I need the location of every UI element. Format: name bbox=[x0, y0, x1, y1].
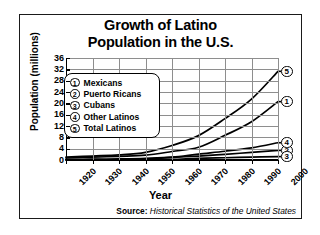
y-tick-label: 4 bbox=[44, 144, 64, 153]
legend-item-5: 5Total Latinos bbox=[70, 123, 154, 134]
y-tick-label: 20 bbox=[44, 99, 64, 108]
chart-title-line-1: Growth of Latino bbox=[24, 17, 297, 34]
chart-title-line-2: Population in the U.S. bbox=[24, 34, 297, 51]
y-tick-mark bbox=[66, 92, 70, 93]
series-end-marker-4: 4 bbox=[281, 137, 293, 149]
y-tick-mark bbox=[66, 69, 70, 70]
series-end-marker-5: 5 bbox=[281, 66, 293, 78]
legend-item-label: Cubans bbox=[84, 100, 116, 110]
legend-item-label: Total Latinos bbox=[84, 123, 137, 133]
x-tick-mark bbox=[146, 160, 147, 164]
chart-title: Growth of Latino Population in the U.S. bbox=[24, 17, 297, 50]
chart-legend: 1Mexicans2Puerto Ricans3Cubans4Other Lat… bbox=[64, 73, 160, 138]
y-tick-mark bbox=[66, 81, 70, 82]
y-tick-mark bbox=[66, 137, 70, 138]
series-end-marker-1: 1 bbox=[281, 96, 293, 108]
source-lead: Source: bbox=[116, 206, 147, 216]
gridline-vertical bbox=[199, 58, 200, 160]
y-tick-label: 16 bbox=[44, 110, 64, 119]
x-tick-mark bbox=[199, 160, 200, 164]
legend-number-badge: 5 bbox=[70, 124, 80, 134]
y-tick-label: 36 bbox=[44, 54, 64, 63]
x-tick-mark bbox=[172, 160, 173, 164]
x-tick-mark bbox=[278, 160, 279, 164]
y-tick-label: 0 bbox=[44, 156, 64, 165]
legend-item-label: Mexicans bbox=[84, 78, 123, 88]
source-text: Historical Statistics of the United Stat… bbox=[150, 206, 296, 216]
y-axis-label: Population (millions) bbox=[29, 27, 40, 137]
y-tick-label: 12 bbox=[44, 122, 64, 131]
series-end-marker-3: 3 bbox=[281, 151, 293, 163]
x-tick-mark bbox=[252, 160, 253, 164]
legend-item-3: 3Cubans bbox=[70, 100, 154, 111]
gridline-vertical bbox=[252, 58, 253, 160]
y-tick-mark bbox=[66, 115, 70, 116]
legend-item-2: 2Puerto Ricans bbox=[70, 88, 154, 99]
chart-figure: Growth of Latino Population in the U.S. … bbox=[0, 0, 320, 235]
y-tick-mark bbox=[66, 149, 70, 150]
x-tick-mark bbox=[119, 160, 120, 164]
legend-number-badge: 3 bbox=[70, 101, 80, 111]
y-tick-label-group: 04812162024283236 bbox=[42, 58, 64, 160]
gridline-vertical bbox=[278, 58, 279, 160]
y-tick-mark bbox=[66, 58, 70, 59]
y-tick-mark bbox=[66, 126, 70, 127]
y-tick-label: 28 bbox=[44, 76, 64, 85]
legend-item-4: 4Other Latinos bbox=[70, 111, 154, 122]
gridline-vertical bbox=[225, 58, 226, 160]
legend-number-badge: 2 bbox=[70, 89, 80, 99]
x-tick-mark bbox=[225, 160, 226, 164]
legend-item-1: 1Mexicans bbox=[70, 77, 154, 88]
x-axis-label: Year bbox=[19, 189, 302, 201]
y-tick-label: 24 bbox=[44, 88, 64, 97]
source-note: Source: Historical Statistics of the Uni… bbox=[19, 206, 296, 216]
gridline-vertical bbox=[172, 58, 173, 160]
x-tick-mark bbox=[93, 160, 94, 164]
y-tick-mark bbox=[66, 103, 70, 104]
legend-item-label: Other Latinos bbox=[84, 112, 140, 122]
y-tick-label: 32 bbox=[44, 65, 64, 74]
legend-item-label: Puerto Ricans bbox=[84, 89, 142, 99]
x-tick-mark bbox=[66, 160, 67, 164]
legend-number-badge: 1 bbox=[70, 78, 80, 88]
y-tick-label: 8 bbox=[44, 133, 64, 142]
legend-number-badge: 4 bbox=[70, 112, 80, 122]
